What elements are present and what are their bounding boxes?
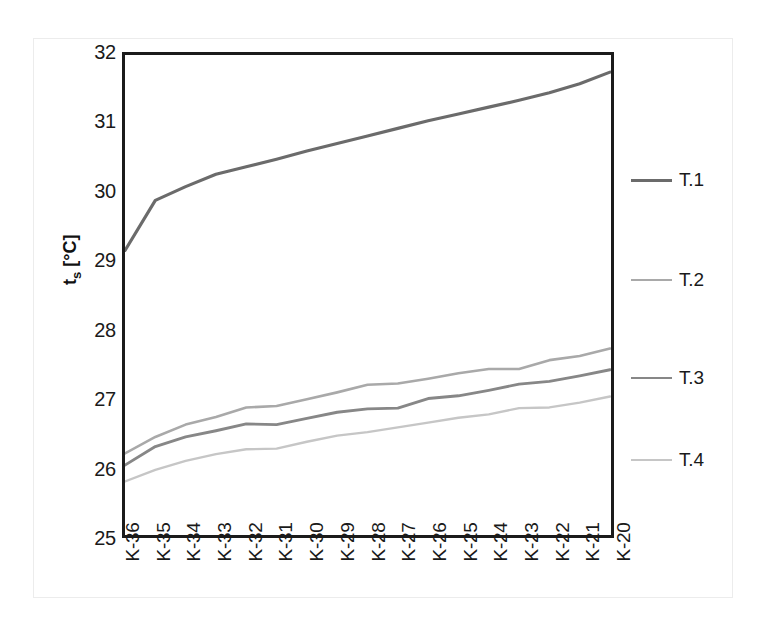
legend-entry-t-2[interactable]: T.2 [631,270,704,290]
legend-label: T.4 [679,449,704,471]
x-axis-tick-label: K-27 [398,523,420,562]
legend-label: T.1 [679,169,704,191]
x-axis-tick-label: K-31 [275,523,297,562]
plot-lines-svg [125,55,611,535]
y-axis-tick-labels: 2526272829303132 [76,52,116,538]
legend-entry-t-1[interactable]: T.1 [631,170,704,190]
chart-legend: T.1T.2T.3T.4 [631,160,751,460]
y-axis-tick-label: 28 [94,318,116,341]
x-axis-tick-label: K-36 [122,523,144,562]
y-axis-tick-label: 27 [94,388,116,411]
x-axis-tick-label: K-29 [337,523,359,562]
x-axis-tick-label: K-22 [552,523,574,562]
y-axis-tick-label: 25 [94,527,116,550]
legend-line-swatch [631,179,672,182]
x-axis-tick-label: K-30 [306,523,328,562]
x-axis-tick-label: K-23 [521,523,543,562]
plot-area [122,52,614,538]
legend-line-swatch [631,377,672,379]
y-axis-tick-label: 31 [94,110,116,133]
x-axis-tick-label: K-21 [582,523,604,562]
x-axis-tick-label: K-32 [245,523,267,562]
legend-label: T.2 [679,269,704,291]
y-axis-tick-label: 29 [94,249,116,272]
legend-line-swatch [631,459,672,461]
y-axis-tick-label: 26 [94,457,116,480]
legend-entry-t-3[interactable]: T.3 [631,368,704,388]
x-axis-tick-label: K-34 [183,523,205,562]
x-axis-tick-label: K-20 [613,523,635,562]
x-axis-tick-label: K-33 [214,523,236,562]
x-axis-tick-labels: K-36K-35K-34K-33K-32K-31K-30K-29K-28K-27… [122,542,614,622]
legend-entry-t-4[interactable]: T.4 [631,450,704,470]
y-axis-tick-label: 30 [94,179,116,202]
x-axis-tick-label: K-35 [153,523,175,562]
y-axis-tick-label: 32 [94,41,116,64]
x-axis-tick-label: K-26 [429,523,451,562]
chart-figure: ts [°C] 2526272829303132 K-36K-35K-34K-3… [0,0,763,633]
legend-line-swatch [631,279,672,281]
series-line-t-1 [125,72,610,250]
legend-label: T.3 [679,367,704,389]
x-axis-tick-label: K-25 [460,523,482,562]
series-line-t-2 [125,348,610,453]
x-axis-tick-label: K-28 [368,523,390,562]
x-axis-tick-label: K-24 [490,523,512,562]
